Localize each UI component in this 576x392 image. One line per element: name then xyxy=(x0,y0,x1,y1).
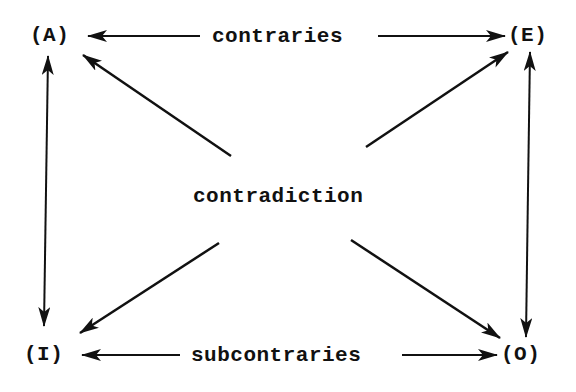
contradiction-label: contradiction xyxy=(193,186,363,207)
a-i-edge xyxy=(44,56,48,326)
contraries-label: contraries xyxy=(212,26,343,47)
node-e: (E) xyxy=(508,25,547,46)
subcontraries-label: subcontraries xyxy=(191,345,361,366)
square-of-opposition-diagram: (A) (E) (I) (O) contraries subcontraries… xyxy=(0,0,576,392)
node-i: (I) xyxy=(24,344,63,365)
node-o: (O) xyxy=(501,344,540,365)
e-o-edge xyxy=(526,52,530,337)
node-a: (A) xyxy=(30,25,69,46)
